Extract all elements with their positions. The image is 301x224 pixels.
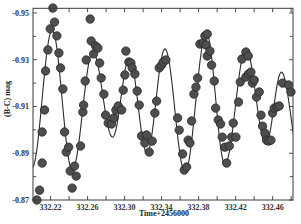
- data-point: [267, 136, 275, 144]
- y-axis-label: (B-C) mag: [3, 81, 12, 117]
- data-point: [41, 67, 49, 75]
- data-point: [222, 159, 230, 167]
- data-point: [64, 143, 72, 151]
- data-point: [232, 133, 240, 141]
- data-point: [148, 137, 156, 145]
- data-point: [257, 111, 265, 119]
- data-point: [94, 44, 102, 52]
- y-tick-label: -0.89: [12, 149, 29, 158]
- data-point: [151, 109, 159, 117]
- data-point: [206, 47, 214, 55]
- x-tick-label: 332.26: [77, 203, 99, 212]
- data-point: [40, 106, 48, 114]
- data-point: [287, 88, 295, 96]
- data-point: [44, 46, 52, 54]
- data-point: [95, 59, 103, 67]
- data-point: [162, 56, 170, 64]
- model-curve-layer: [32, 30, 300, 172]
- data-point: [218, 133, 226, 141]
- y-tick-labels: -0.95-0.93-0.91-0.89-0.87: [12, 9, 29, 205]
- data-point: [182, 163, 190, 171]
- data-point: [173, 114, 181, 122]
- plot-svg: 332.22332.26332.30332.34332.38332.42332.…: [0, 0, 301, 224]
- data-point: [216, 120, 224, 128]
- data-point: [187, 117, 195, 125]
- y-tick-label: -0.91: [12, 102, 29, 111]
- x-tick-label: 332.46: [262, 203, 284, 212]
- data-point: [119, 86, 127, 94]
- data-point: [60, 128, 68, 136]
- x-axis-label: Time+2456000: [139, 209, 189, 218]
- data-point: [193, 74, 201, 82]
- y-tick-label: -0.95: [12, 9, 29, 18]
- data-point: [192, 83, 200, 91]
- data-point: [82, 56, 90, 64]
- data-point: [225, 142, 233, 150]
- data-point: [35, 186, 43, 194]
- data-point: [53, 32, 61, 40]
- data-point: [255, 88, 263, 96]
- data-point: [247, 68, 255, 76]
- data-point: [38, 128, 46, 136]
- data-point: [152, 97, 160, 105]
- x-tick-label: 332.42: [225, 203, 247, 212]
- data-point: [186, 139, 194, 147]
- data-point: [250, 76, 258, 84]
- data-point: [86, 15, 94, 23]
- x-tick-label: 332.22: [40, 203, 62, 212]
- data-point: [178, 150, 186, 158]
- x-tick-label: 332.38: [188, 203, 210, 212]
- data-point: [70, 162, 78, 170]
- data-point: [135, 101, 143, 109]
- data-point: [207, 61, 215, 69]
- data-point: [50, 18, 58, 26]
- data-point: [203, 30, 211, 38]
- data-point: [55, 49, 63, 57]
- y-tick-label: -0.87: [12, 196, 29, 205]
- data-point: [175, 126, 183, 134]
- data-point: [229, 119, 237, 127]
- data-point: [210, 77, 218, 85]
- data-point: [133, 87, 141, 95]
- data-point: [275, 102, 283, 110]
- data-point: [122, 47, 130, 55]
- data-point: [79, 101, 87, 109]
- data-point: [81, 77, 89, 85]
- data-point: [56, 64, 64, 72]
- data-point: [110, 114, 118, 122]
- data-point: [100, 90, 108, 98]
- light-curve-chart: 332.22332.26332.30332.34332.38332.42332.…: [0, 0, 301, 224]
- data-point: [97, 74, 105, 82]
- data-point: [117, 106, 125, 114]
- data-point: [68, 184, 76, 192]
- x-tick-label: 332.30: [114, 203, 136, 212]
- data-point: [211, 104, 219, 112]
- data-point: [72, 172, 80, 180]
- data-point: [131, 70, 139, 78]
- data-point: [121, 71, 129, 79]
- data-point: [145, 148, 153, 156]
- data-points-layer: [33, 4, 295, 204]
- data-point: [59, 85, 67, 93]
- data-point: [101, 111, 109, 119]
- data-point: [76, 142, 84, 150]
- data-point: [38, 159, 46, 167]
- model-fit-curve: [32, 30, 300, 172]
- data-point: [234, 98, 242, 106]
- y-tick-label: -0.93: [12, 56, 29, 65]
- data-point: [244, 52, 252, 60]
